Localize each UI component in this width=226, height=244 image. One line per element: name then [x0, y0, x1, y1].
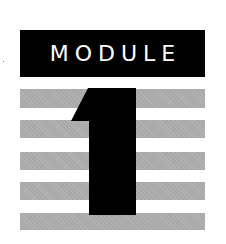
numeral-one-graphic — [0, 0, 226, 244]
